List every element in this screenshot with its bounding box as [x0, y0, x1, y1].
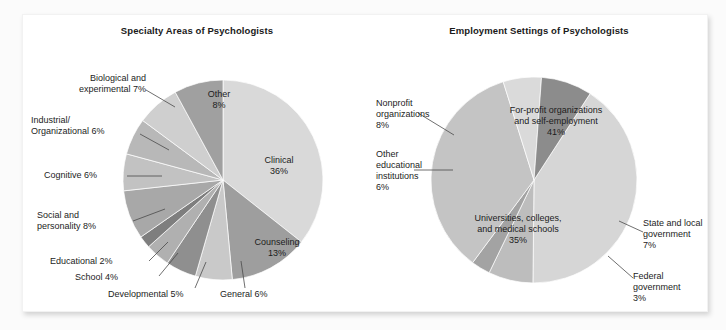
- label-universities-colleges: Universities, colleges, and medical scho…: [449, 213, 587, 246]
- label-counseling: Counseling 13%: [241, 237, 313, 259]
- label-federal-government: Federal government 3%: [633, 271, 707, 304]
- label-educational: Educational 2%: [50, 256, 149, 267]
- leader-line-federal: [608, 256, 633, 278]
- label-social-and-personality: Social and personality 8%: [37, 210, 133, 232]
- label-other-educational-institutions: Other educational institutions 6%: [376, 149, 448, 193]
- label-cognitive: Cognitive 6%: [44, 170, 128, 181]
- label-other: Other 8%: [194, 89, 244, 111]
- label-for-profit-organizations: For-profit organizations and self-employ…: [483, 105, 629, 138]
- specialty-areas-chart: Specialty Areas of Psychologists Biologi…: [23, 15, 371, 311]
- label-nonprofit-organizations: Nonprofit organizations 8%: [376, 98, 454, 131]
- label-industrial-organizational: Industrial/ Organizational 6%: [31, 115, 141, 137]
- employment-settings-chart: Employment Settings of Psychologists Non…: [371, 15, 707, 311]
- label-school: School 4%: [75, 272, 159, 283]
- label-state-and-local-government: State and local government 7%: [643, 218, 719, 251]
- label-biological-and-experimental: Biological and experimental 7%: [41, 73, 146, 95]
- figure-frame: Specialty Areas of Psychologists Biologi…: [22, 14, 708, 312]
- label-developmental: Developmental 5%: [108, 289, 218, 300]
- label-clinical: Clinical 36%: [244, 155, 314, 177]
- label-general: General 6%: [220, 289, 298, 300]
